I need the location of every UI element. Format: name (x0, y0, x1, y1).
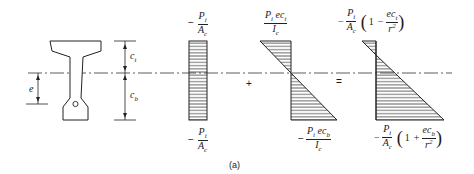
d1-bottom-sign: − (188, 134, 194, 145)
bending-stress-bottom (291, 73, 337, 120)
axial-stress-block (189, 41, 207, 120)
label-ct: ct (130, 51, 136, 64)
d2-top-fraction: Pi ect Ic (264, 10, 287, 38)
d1-bottom-fraction: Pi Ac (197, 127, 208, 155)
label-e: e (29, 84, 33, 94)
figure-caption: (a) (229, 160, 240, 170)
combined-stress-top (362, 41, 376, 55)
tendon-icon (73, 101, 78, 106)
d3-top-expression: − Pi Ac ( 1 − ect r2 ) (336, 8, 404, 36)
bending-stress-top (260, 41, 291, 73)
d1-top-sign: − (188, 17, 194, 28)
plus-operator: + (246, 78, 252, 89)
combined-stress-bottom (376, 55, 444, 120)
d3-bottom-expression: − Pi Ac ( 1 + ecb r2 ) (372, 124, 442, 152)
label-cb: cb (130, 90, 138, 103)
d2-bottom-fraction: Pi ecb Ic (306, 126, 331, 154)
d1-top-fraction: Pi Ac (197, 11, 208, 39)
beam-cross-section (50, 41, 101, 120)
equals-operator: = (336, 76, 342, 87)
d2-bottom-sign: − (298, 133, 304, 144)
